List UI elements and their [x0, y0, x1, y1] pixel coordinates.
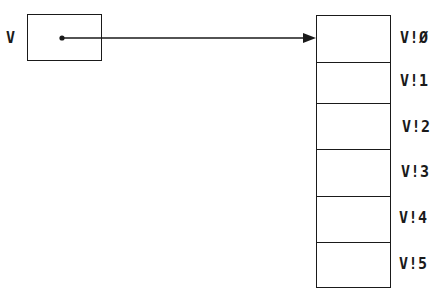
- vector-cell-0: [317, 16, 390, 63]
- cell-label-3: V!3: [401, 165, 430, 180]
- cell-label-4: V!4: [399, 211, 428, 226]
- vector-array: [316, 15, 391, 288]
- vector-cell-3: [317, 150, 390, 197]
- cell-label-5: V!5: [399, 257, 428, 272]
- vector-cell-5: [317, 243, 390, 288]
- vector-cell-1: [317, 63, 390, 104]
- arrowhead-icon: [303, 33, 316, 43]
- vector-cell-4: [317, 197, 390, 243]
- vector-cell-2: [317, 104, 390, 150]
- cell-label-1: V!1: [400, 74, 429, 89]
- cell-label-0: V!Ø: [400, 31, 429, 46]
- cell-label-2: V!2: [402, 120, 431, 135]
